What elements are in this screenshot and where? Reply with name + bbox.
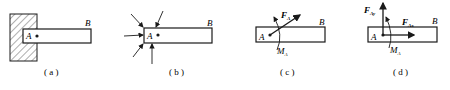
label-a: A: [25, 31, 32, 41]
label-a: A: [370, 32, 377, 42]
label-b: B: [432, 16, 438, 26]
caption-d: ( d ): [393, 67, 408, 77]
beam: [23, 29, 91, 43]
caption-a: ( a ): [44, 67, 59, 77]
figure-a: A B ( a ): [10, 14, 91, 77]
figure-b: A B ( b ): [124, 11, 213, 77]
force-arrow: [131, 14, 143, 27]
figure-c: A B FA MA ( c ): [256, 10, 325, 77]
label-b: B: [207, 18, 213, 28]
point-a: [156, 33, 159, 36]
point-a: [35, 34, 38, 37]
force-arrow: [133, 44, 143, 57]
label-ma: MA: [389, 45, 402, 56]
label-fay: FAy: [363, 5, 376, 16]
label-a: A: [146, 31, 153, 41]
caption-b: ( b ): [169, 67, 184, 77]
label-b: B: [319, 17, 325, 27]
force-arrow: [124, 35, 143, 36]
label-b: B: [85, 18, 91, 28]
diagram-canvas: A B ( a ) A B ( b ) A B FA MA ( c ) A B: [0, 0, 450, 90]
beam: [256, 27, 325, 42]
force-arrow: [156, 11, 163, 27]
beam: [144, 28, 212, 43]
figure-d: A B FAy FAx MA ( d ): [363, 3, 438, 77]
label-fa: FA: [280, 10, 291, 21]
caption-c: ( c ): [280, 67, 295, 77]
label-a: A: [258, 32, 265, 42]
label-ma: MA: [276, 46, 289, 57]
label-fax: FAx: [401, 17, 414, 28]
